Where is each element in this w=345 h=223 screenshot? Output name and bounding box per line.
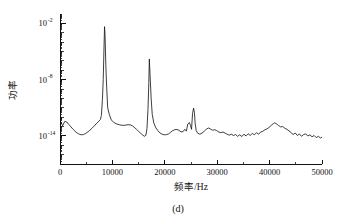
x-axis-tick-label: 40000: [259, 167, 280, 177]
x-axis-title: 频率/Hz: [174, 181, 208, 192]
y-axis-tick-label: 10: [39, 18, 48, 28]
figure-container: 10-210-810-14 01000020000300004000050000…: [0, 0, 345, 223]
power-spectrum-chart: 10-210-810-14 01000020000300004000050000…: [0, 0, 345, 223]
y-axis-tick-exponent: -2: [48, 17, 53, 23]
x-axis-tick-label: 0: [58, 167, 62, 177]
y-axis-tick-exponent: -8: [48, 73, 53, 79]
y-axis-tick-exponent: -14: [48, 130, 56, 136]
x-axis-tick-label: 10000: [102, 167, 123, 177]
x-axis-tick-label: 50000: [311, 167, 332, 177]
plot-axes: [60, 14, 322, 164]
y-axis-tick-label: 10: [39, 131, 48, 141]
figure-caption: (d): [172, 203, 184, 215]
x-axis-tick-labels: 01000020000300004000050000: [58, 167, 333, 177]
x-axis-tick-label: 20000: [154, 167, 175, 177]
y-axis-tick-labels: 10-210-810-14: [39, 17, 56, 141]
spectrum-data-line: [61, 27, 322, 138]
y-axis-tick-label: 10: [39, 75, 48, 85]
y-axis-minor-ticks: [60, 14, 64, 164]
y-axis-title: 功率: [7, 80, 18, 100]
x-axis-tick-label: 30000: [207, 167, 228, 177]
